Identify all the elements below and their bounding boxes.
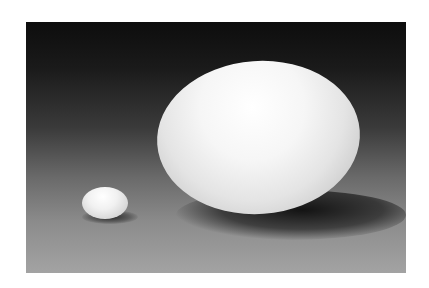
small-egg (82, 187, 128, 219)
photo (26, 22, 406, 273)
